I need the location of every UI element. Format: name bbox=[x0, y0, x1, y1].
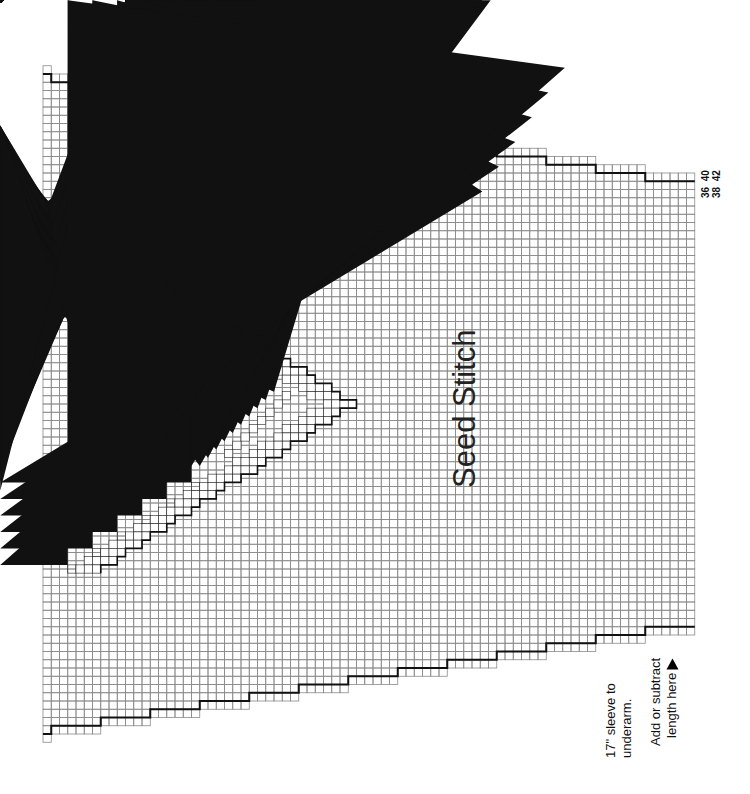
seed-stitch-label: Seed Stitch bbox=[447, 329, 483, 488]
size-40: 40 bbox=[700, 170, 711, 181]
size-labels: 36 40 38 42 bbox=[700, 170, 722, 198]
sleeve-note: 17" sleeve to underarm. bbox=[603, 683, 635, 758]
size-38: 38 bbox=[711, 187, 722, 198]
adjust-length-note: Add or subtract length here bbox=[648, 658, 680, 746]
triangle-up-icon bbox=[667, 658, 679, 669]
size-36: 36 bbox=[700, 187, 711, 198]
size-42: 42 bbox=[711, 170, 722, 181]
knitting-chart-grid bbox=[0, 0, 750, 794]
